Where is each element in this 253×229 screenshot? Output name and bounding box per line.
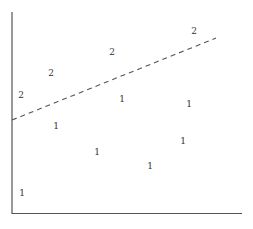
data-point-label: 2 bbox=[48, 68, 54, 78]
data-points: 11111112222 bbox=[18, 26, 197, 198]
data-point-label: 2 bbox=[18, 90, 24, 100]
data-point-label: 1 bbox=[119, 94, 125, 104]
data-point-label: 2 bbox=[109, 47, 115, 57]
data-point-label: 1 bbox=[94, 147, 100, 157]
data-point-label: 2 bbox=[191, 26, 197, 36]
data-point-label: 1 bbox=[180, 136, 186, 146]
scatter-chart: 11111112222 bbox=[0, 0, 253, 229]
data-point-label: 1 bbox=[186, 99, 192, 109]
data-point-label: 1 bbox=[53, 121, 59, 131]
data-point-label: 1 bbox=[19, 188, 25, 198]
data-point-label: 1 bbox=[147, 161, 153, 171]
